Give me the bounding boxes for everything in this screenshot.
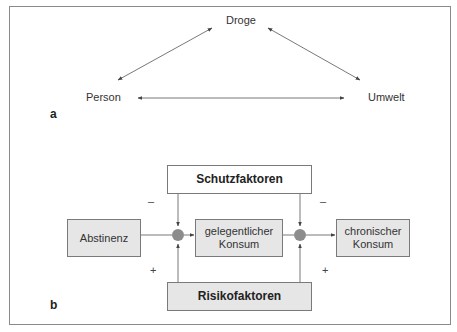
junction-node-right (294, 229, 306, 241)
box-abstinenz: Abstinenz (67, 219, 141, 257)
box-schutzfaktoren: Schutzfaktoren (167, 165, 312, 194)
junction-node-left (172, 229, 184, 241)
box-gelegentlicher-konsum: gelegentlicher Konsum (195, 219, 283, 257)
box-gelegentlicher-line1: gelegentlicher (205, 225, 274, 238)
box-risikofaktoren: Risikofaktoren (167, 282, 312, 311)
node-droge: Droge (226, 14, 256, 26)
sign-minus-left: – (148, 195, 154, 207)
node-person: Person (86, 91, 121, 103)
sign-plus-left: + (150, 264, 156, 276)
sign-minus-right: – (320, 195, 326, 207)
box-chronischer-line1: chronischer (345, 225, 402, 238)
panel-label-b: b (50, 298, 57, 312)
box-chronischer-konsum: chronischer Konsum (336, 219, 410, 257)
sign-plus-right: + (322, 264, 328, 276)
panel-label-a: a (50, 107, 57, 121)
box-gelegentlicher-line2: Konsum (219, 238, 259, 251)
node-umwelt: Umwelt (368, 91, 405, 103)
box-chronischer-line2: Konsum (353, 238, 393, 251)
